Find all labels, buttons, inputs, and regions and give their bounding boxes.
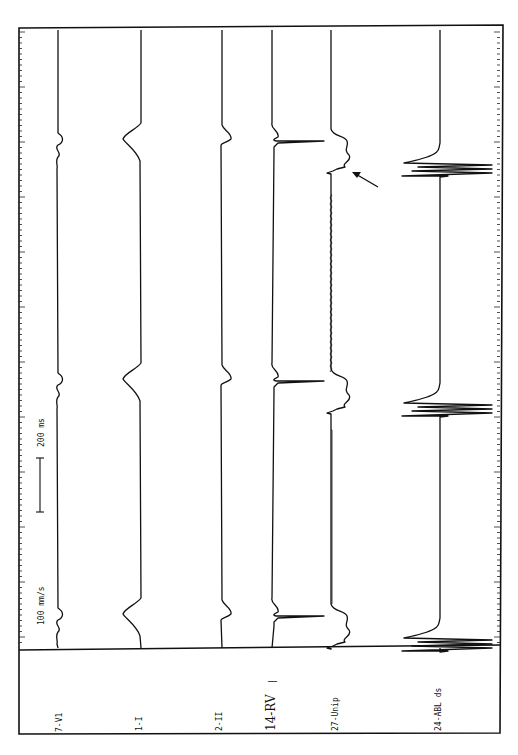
time-ticks (19, 32, 500, 643)
trace-2-ii (221, 30, 231, 648)
arrow-annotation (352, 172, 378, 187)
rv-marker: | (267, 679, 277, 684)
channel-label-unip: 27-Unip (331, 697, 340, 731)
trace-27-unip (327, 30, 350, 649)
channel-label-abl: 24-ABL ds (434, 687, 443, 731)
trace-7-v1 (57, 30, 63, 648)
electrogram-figure: 200 ms 100 mm/s 7-V1 1-I 2-II 14-RV | 27… (0, 0, 518, 755)
channel-label-ii: 2-II (215, 712, 224, 731)
plot-frame (19, 25, 503, 734)
signal-traces (57, 30, 492, 652)
channel-labels: 7-V1 1-I 2-II 14-RV | 27-Unip 24-ABL ds (55, 679, 443, 732)
trace-14-rv (272, 30, 324, 648)
channel-label-i: 1-I (135, 716, 144, 731)
trace-1-i (123, 30, 141, 648)
channel-label-v1: 7-V1 (55, 713, 64, 732)
channel-label-rv: 14-RV (264, 694, 278, 731)
trace-24-abl-ds (402, 30, 492, 652)
scale-bar: 200 ms (36, 418, 46, 512)
paper-speed-label: 100 mm/s (37, 586, 46, 625)
scale-bar-label: 200 ms (37, 418, 46, 447)
